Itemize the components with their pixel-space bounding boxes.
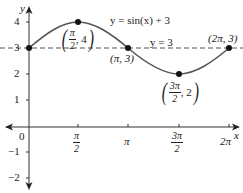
x-tick-2pi: 2π (220, 136, 231, 147)
y-tick-3: 3 (14, 42, 20, 53)
x-tick-pi: π (124, 136, 130, 147)
y-tick-2: 2 (14, 68, 20, 79)
curve-equation-label: y = sin(x) + 3 (110, 15, 170, 26)
x-tick-pi-over-2: π 2 (73, 131, 80, 154)
plot-canvas (0, 0, 243, 193)
x-axis-label: x (234, 130, 239, 141)
x-tick-3pi-over-2: 3π 2 (171, 131, 183, 154)
point-label-max: ( π 2 , 4 ) (60, 26, 95, 52)
midline-equation-label: y = 3 (150, 37, 173, 48)
point-label-min: ( 3π 2 , 2 ) (160, 79, 200, 105)
y-tick-4: 4 (14, 16, 20, 27)
origin-label: 0 (19, 131, 25, 142)
y-tick-neg2: −2 (8, 172, 20, 183)
point-label-2pi: (2π, 3) (208, 33, 237, 44)
y-tick-1: 1 (14, 94, 20, 105)
y-tick-neg1: −1 (8, 146, 20, 157)
y-axis-label: y (20, 3, 25, 14)
point-label-pi: (π, 3) (110, 53, 134, 64)
